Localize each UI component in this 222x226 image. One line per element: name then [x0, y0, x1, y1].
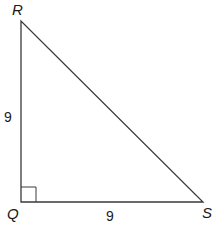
vertex-label-r: R — [12, 1, 23, 18]
vertex-label-q: Q — [7, 205, 19, 222]
triangle-rqs — [21, 21, 203, 202]
vertex-label-s: S — [202, 204, 212, 221]
side-label-rq: 9 — [4, 109, 12, 125]
side-label-qs: 9 — [106, 208, 114, 224]
triangle-diagram: R Q S 9 9 — [0, 0, 222, 226]
right-angle-marker — [21, 187, 36, 202]
